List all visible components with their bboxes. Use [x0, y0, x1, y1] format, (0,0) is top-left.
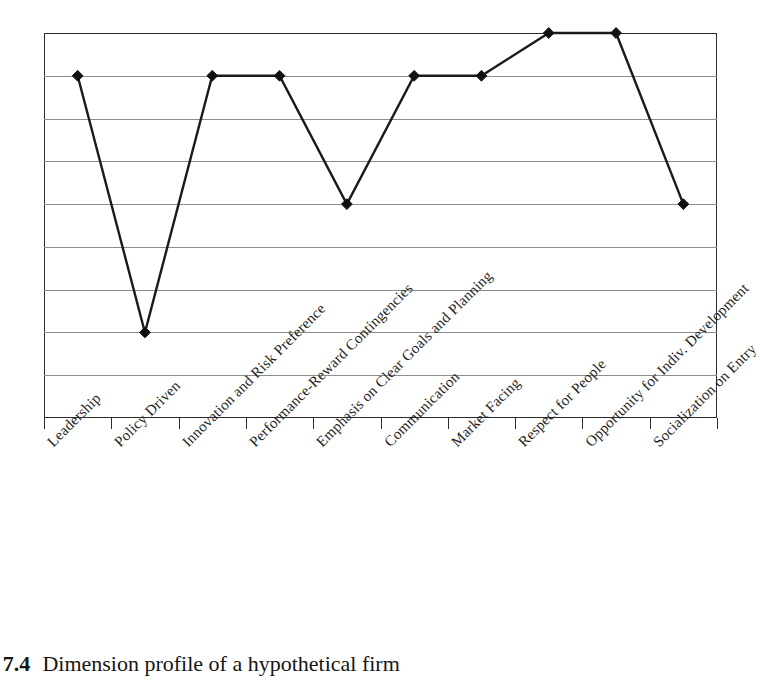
data-point-marker: [678, 199, 689, 210]
x-axis-tick: [44, 418, 45, 429]
plot-area: [44, 33, 717, 418]
figure-caption: ure 7.4Dimension profile of a hypothetic…: [0, 651, 745, 680]
x-axis-tick: [313, 418, 314, 429]
x-axis-tick: [515, 418, 516, 429]
x-axis-tick: [448, 418, 449, 429]
caption-number: ure 7.4: [0, 651, 30, 676]
data-point-marker: [274, 70, 285, 81]
data-point-marker: [341, 199, 352, 210]
series-marker-group: [72, 28, 689, 338]
data-point-marker: [207, 70, 218, 81]
x-axis-tick: [650, 418, 651, 429]
x-axis-tick: [381, 418, 382, 429]
x-axis-tick: [246, 418, 247, 429]
data-point-marker: [409, 70, 420, 81]
data-point-marker: [611, 28, 622, 39]
x-axis-tick: [582, 418, 583, 429]
data-series-svg: [44, 33, 717, 418]
x-axis-tick: [717, 418, 718, 429]
data-point-marker: [72, 70, 83, 81]
data-point-marker: [140, 327, 151, 338]
x-axis-tick: [179, 418, 180, 429]
caption-text: Dimension profile of a hypothetical firm: [42, 651, 399, 676]
series-line: [78, 33, 684, 332]
x-axis-tick: [111, 418, 112, 429]
